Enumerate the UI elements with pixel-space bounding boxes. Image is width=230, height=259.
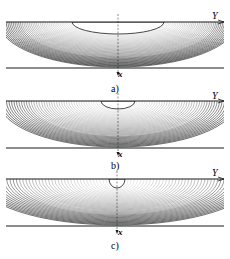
panel-c-caption: c) — [111, 240, 119, 251]
panel-b-y-axis-label: Y — [212, 90, 218, 101]
panel-a-x-axis-label: x — [118, 69, 123, 79]
panel-a-y-axis-label: Y — [212, 10, 218, 21]
panel-c-y-axis-label: Y — [212, 167, 218, 178]
panel-a — [0, 14, 230, 76]
panel-a-caption: a) — [111, 83, 119, 94]
panel-b — [0, 93, 230, 156]
panel-b-caption: b) — [111, 160, 119, 171]
panel-b-x-axis-label: x — [118, 149, 123, 159]
panel-c-x-axis-label: x — [118, 227, 123, 237]
stress-contour-figure — [0, 0, 230, 259]
panel-c — [0, 171, 230, 234]
